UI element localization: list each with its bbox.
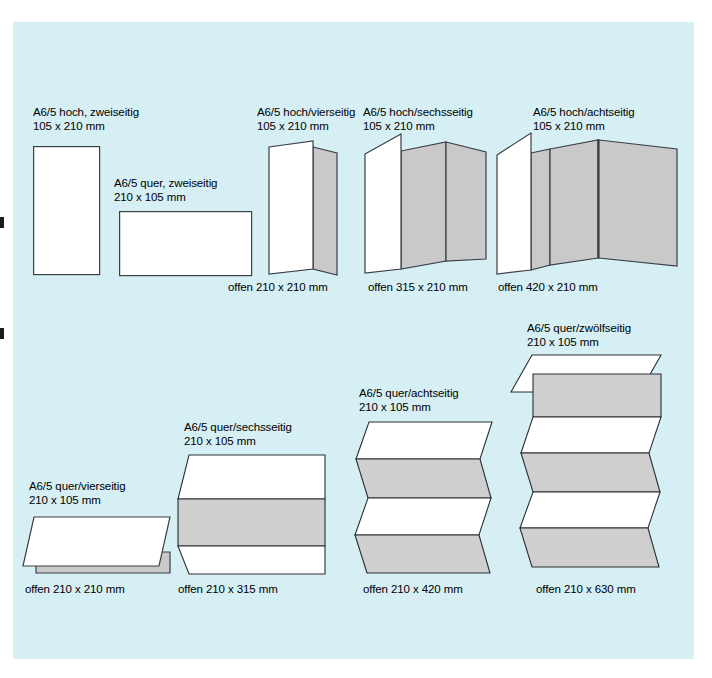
label-size: 210 x 105 mm bbox=[29, 494, 125, 508]
edge-registration-mark-lower bbox=[0, 328, 4, 339]
caption-a65-quer-vierseitig: offen 210 x 210 mm bbox=[25, 583, 125, 595]
edge-registration-mark-upper bbox=[0, 217, 4, 228]
caption-a65-quer-sechsseitig: offen 210 x 315 mm bbox=[178, 583, 278, 595]
label-title: A6/5 quer/sechsseitig bbox=[184, 421, 292, 435]
label-title: A6/5 hoch/achtseitig bbox=[533, 106, 635, 120]
label-title: A6/5 hoch/vierseitig bbox=[257, 106, 355, 120]
figure-a65-hoch-sechsseitig bbox=[362, 131, 488, 277]
label-size: 210 x 105 mm bbox=[114, 191, 217, 205]
caption-a65-quer-achtseitig: offen 210 x 420 mm bbox=[363, 583, 463, 595]
label-title: A6/5 quer/vierseitig bbox=[29, 480, 125, 494]
figure-a65-hoch-vierseitig bbox=[266, 137, 340, 280]
label-a65-quer-sechsseitig: A6/5 quer/sechsseitig 210 x 105 mm bbox=[184, 421, 292, 448]
caption-a65-hoch-achtseitig: offen 420 x 210 mm bbox=[498, 281, 598, 293]
folding-formats-diagram: A6/5 hoch, zweiseitig 105 x 210 mm A6/5 … bbox=[0, 0, 712, 678]
figure-a65-quer-sechsseitig bbox=[172, 452, 328, 577]
label-size: 210 x 105 mm bbox=[527, 336, 631, 350]
figure-a65-quer-zwoelfseitig bbox=[494, 352, 666, 580]
label-a65-quer-vierseitig: A6/5 quer/vierseitig 210 x 105 mm bbox=[29, 480, 125, 507]
caption-a65-hoch-sechsseitig: offen 315 x 210 mm bbox=[368, 281, 468, 293]
label-size: 210 x 105 mm bbox=[184, 435, 292, 449]
label-size: 105 x 210 mm bbox=[257, 120, 355, 134]
caption-a65-quer-zwoelfseitig: offen 210 x 630 mm bbox=[536, 583, 636, 595]
caption-a65-hoch-vierseitig: offen 210 x 210 mm bbox=[228, 281, 328, 293]
label-title: A6/5 quer/zwölfseitig bbox=[527, 322, 631, 336]
label-title: A6/5 quer, zweiseitig bbox=[114, 177, 217, 191]
figure-a65-hoch-achtseitig bbox=[494, 130, 680, 278]
label-a65-hoch-zweiseitig: A6/5 hoch, zweiseitig 105 x 210 mm bbox=[33, 106, 139, 133]
label-a65-hoch-sechsseitig: A6/5 hoch/sechsseitig 105 x 210 mm bbox=[363, 106, 473, 133]
figure-a65-quer-achtseitig bbox=[344, 418, 504, 578]
figure-a65-hoch-zweiseitig bbox=[33, 146, 101, 276]
label-size: 105 x 210 mm bbox=[33, 120, 139, 134]
label-title: A6/5 quer/achtseitig bbox=[359, 387, 459, 401]
figure-a65-quer-vierseitig bbox=[22, 509, 174, 577]
label-title: A6/5 hoch/sechsseitig bbox=[363, 106, 473, 120]
label-a65-hoch-vierseitig: A6/5 hoch/vierseitig 105 x 210 mm bbox=[257, 106, 355, 133]
label-size: 210 x 105 mm bbox=[359, 401, 459, 415]
figure-a65-quer-zweiseitig bbox=[119, 211, 253, 277]
label-a65-quer-zweiseitig: A6/5 quer, zweiseitig 210 x 105 mm bbox=[114, 177, 217, 204]
label-a65-quer-achtseitig: A6/5 quer/achtseitig 210 x 105 mm bbox=[359, 387, 459, 414]
label-title: A6/5 hoch, zweiseitig bbox=[33, 106, 139, 120]
label-a65-quer-zwoelfseitig: A6/5 quer/zwölfseitig 210 x 105 mm bbox=[527, 322, 631, 349]
label-a65-hoch-achtseitig: A6/5 hoch/achtseitig 105 x 210 mm bbox=[533, 106, 635, 133]
